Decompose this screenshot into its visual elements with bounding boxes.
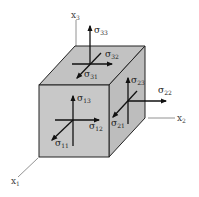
x2-axis-label: x2 — [177, 113, 186, 124]
x3-axis-label: x3 — [71, 10, 80, 21]
sigma22-label: σ22 — [158, 85, 172, 96]
sigma33-label: σ33 — [94, 25, 108, 36]
x1-axis-line — [18, 158, 38, 177]
stress-cube-diagram: x3 x2 x1 σ33 σ32 σ31 σ13 σ12 σ11 σ23 σ22… — [0, 0, 199, 197]
cube-front-face — [39, 85, 109, 157]
x1-axis-label: x1 — [11, 176, 20, 187]
